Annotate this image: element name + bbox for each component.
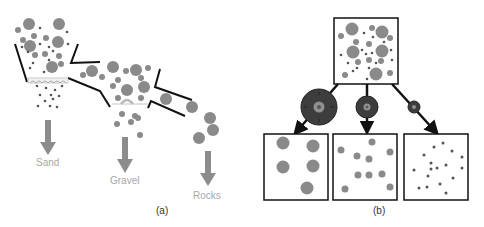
rock-particles [160,93,219,144]
medium-sieve-icon [356,96,378,118]
small-particles-box [404,134,468,200]
hopper-2 [148,69,192,116]
panel-a-caption: (a) [156,205,168,216]
panel-b-caption: (b) [373,205,385,216]
gravel-falling [114,111,143,138]
gravel-label: Gravel [110,175,139,186]
medium-particles-box [333,134,397,200]
diagram-canvas: Sand Gravel Rocks (a) (b) [0,0,484,227]
sand-mesh [28,78,68,83]
large-particles-box [264,134,328,200]
transit-particles-1 [80,65,105,80]
sand-label: Sand [36,157,59,168]
small-sieve-icon [408,101,420,113]
large-sieve-icon [301,89,337,125]
rocks-arrow [200,151,216,186]
hopper-2-particles [107,61,151,101]
sand-arrow [40,120,56,155]
diagram-svg [0,0,484,227]
rocks-label: Rocks [193,190,221,201]
gravel-arrow [117,137,133,173]
mixed-particles-box [334,18,398,84]
sand-falling [36,85,64,109]
panel-b-filter-tree [264,18,468,200]
